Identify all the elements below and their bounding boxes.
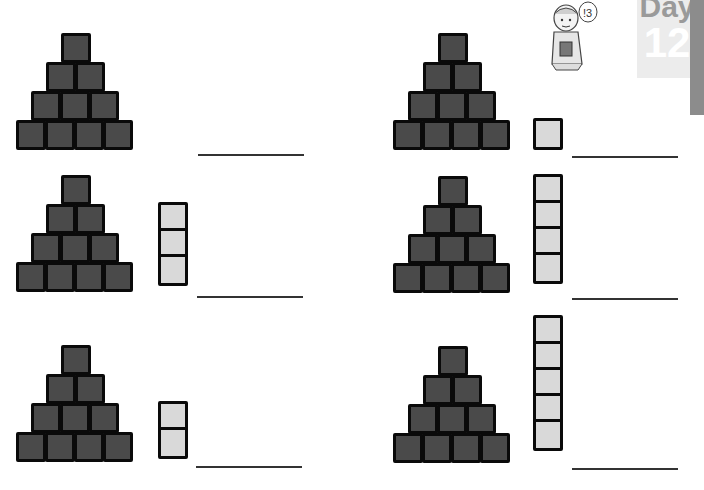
- dark-block: [75, 62, 105, 92]
- dark-block: [74, 120, 104, 150]
- dark-block: [438, 33, 468, 63]
- dark-block: [423, 62, 453, 92]
- day-label: Day: [637, 0, 697, 20]
- light-block: [161, 231, 185, 257]
- dark-block: [60, 233, 90, 263]
- dark-block: [408, 91, 438, 121]
- light-block: [161, 257, 185, 283]
- light-block-stack: [533, 118, 563, 150]
- answer-blank[interactable]: [572, 298, 678, 300]
- light-block: [161, 430, 185, 456]
- dark-block: [422, 433, 452, 463]
- light-block: [536, 344, 560, 370]
- dark-block: [31, 403, 61, 433]
- dark-block: [437, 404, 467, 434]
- light-block: [536, 177, 560, 203]
- dark-block: [408, 234, 438, 264]
- light-block: [536, 229, 560, 255]
- light-block: [536, 318, 560, 344]
- dark-block: [75, 374, 105, 404]
- dark-block: [45, 262, 75, 292]
- dark-block: [89, 403, 119, 433]
- dark-block: [16, 262, 46, 292]
- light-block: [161, 404, 185, 430]
- dark-block: [74, 262, 104, 292]
- dark-block: [466, 404, 496, 434]
- light-block: [536, 422, 560, 448]
- dark-block: [60, 403, 90, 433]
- dark-block: [75, 204, 105, 234]
- dark-block: [408, 404, 438, 434]
- dark-block: [393, 263, 423, 293]
- dark-block: [393, 433, 423, 463]
- dark-block: [45, 432, 75, 462]
- dark-block: [74, 432, 104, 462]
- dark-block: [16, 432, 46, 462]
- dark-block: [60, 91, 90, 121]
- dark-block: [103, 120, 133, 150]
- speech-bubble-text: !3: [583, 7, 592, 19]
- dark-block: [451, 433, 481, 463]
- dark-block: [452, 375, 482, 405]
- light-block-stack: [158, 202, 188, 286]
- dark-block: [103, 432, 133, 462]
- dark-block: [423, 375, 453, 405]
- day-badge: Day 12: [637, 0, 697, 78]
- dark-block: [16, 120, 46, 150]
- dark-block: [61, 33, 91, 63]
- light-block: [536, 203, 560, 229]
- dark-block: [103, 262, 133, 292]
- dark-block: [452, 62, 482, 92]
- dark-block: [46, 62, 76, 92]
- dark-block: [46, 204, 76, 234]
- dark-block: [31, 233, 61, 263]
- dark-block: [89, 233, 119, 263]
- answer-blank[interactable]: [572, 156, 678, 158]
- light-block: [536, 255, 560, 281]
- dark-block: [480, 433, 510, 463]
- light-block-stack: [533, 174, 563, 284]
- answer-blank[interactable]: [197, 296, 303, 298]
- light-block: [161, 205, 185, 231]
- dark-block: [437, 91, 467, 121]
- dark-block: [89, 91, 119, 121]
- dark-block: [466, 234, 496, 264]
- answer-blank[interactable]: [196, 466, 302, 468]
- light-block: [536, 370, 560, 396]
- dark-block: [438, 176, 468, 206]
- dark-block: [422, 263, 452, 293]
- dark-block: [31, 91, 61, 121]
- day-number: 12: [637, 20, 697, 66]
- dark-block: [437, 234, 467, 264]
- dark-block: [61, 345, 91, 375]
- dark-block: [451, 263, 481, 293]
- dark-block: [480, 120, 510, 150]
- dark-block: [451, 120, 481, 150]
- dark-block: [393, 120, 423, 150]
- light-block-stack: [158, 401, 188, 459]
- side-tab: [690, 0, 704, 115]
- light-block: [536, 396, 560, 422]
- dark-block: [46, 374, 76, 404]
- answer-blank[interactable]: [572, 468, 678, 470]
- dark-block: [422, 120, 452, 150]
- dark-block: [480, 263, 510, 293]
- dark-block: [45, 120, 75, 150]
- light-block-stack: [533, 315, 563, 451]
- dark-block: [61, 175, 91, 205]
- mascot-boy-thinking-icon: !3: [548, 0, 598, 72]
- dark-block: [466, 91, 496, 121]
- dark-block: [438, 346, 468, 376]
- dark-block: [423, 205, 453, 235]
- dark-block: [452, 205, 482, 235]
- light-block: [536, 121, 560, 147]
- answer-blank[interactable]: [198, 154, 304, 156]
